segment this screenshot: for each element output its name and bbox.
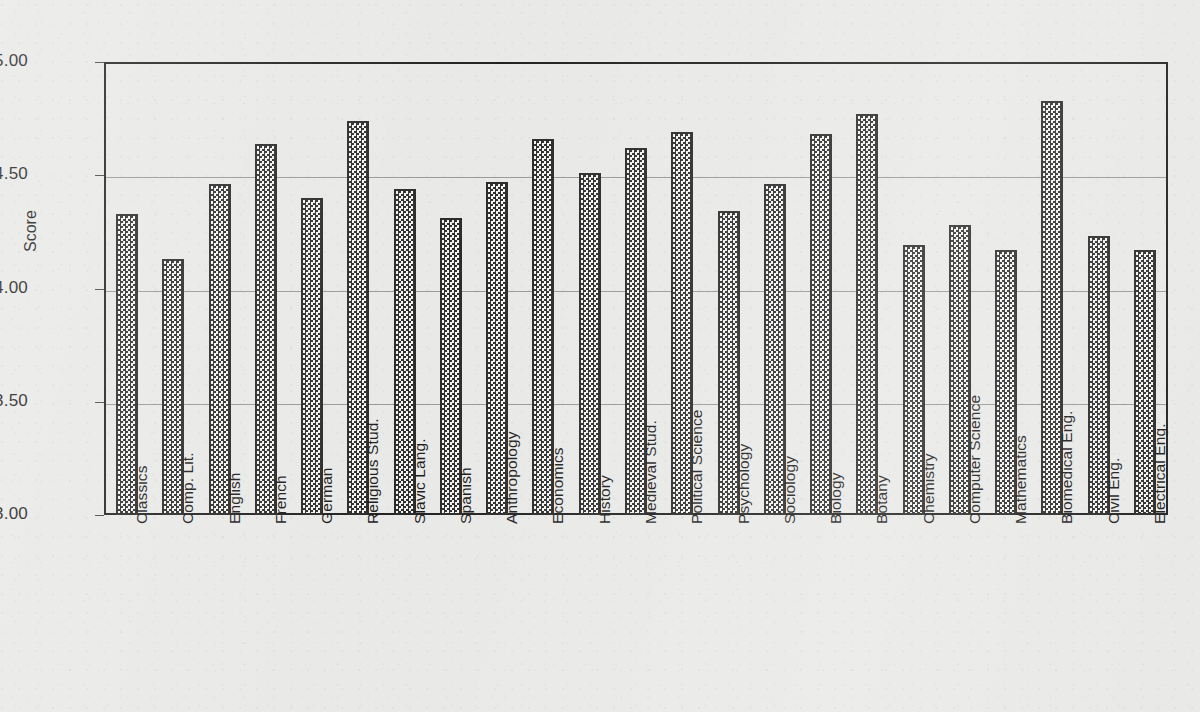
x-tick-label: Sociology <box>781 456 799 524</box>
x-tick-label: Mathematics <box>1012 435 1030 524</box>
bar <box>579 173 601 515</box>
x-tick-label: Biomedical Eng. <box>1058 410 1076 524</box>
bar <box>209 184 231 515</box>
y-tick-label: 3.00 <box>0 504 28 524</box>
x-tick-label: Economics <box>549 447 567 524</box>
x-tick-label: Chemistry <box>920 453 938 524</box>
x-tick-label: German <box>318 467 336 524</box>
y-tick-mark <box>95 175 104 176</box>
bars-layer <box>104 62 1168 515</box>
y-tick-mark <box>95 62 104 63</box>
y-tick-mark <box>95 289 104 290</box>
x-tick-label: English <box>226 472 244 524</box>
x-tick-label: Slavic Lang. <box>411 438 429 524</box>
bar <box>810 134 832 515</box>
y-tick-label: 4.50 <box>0 164 28 184</box>
x-tick-label: Civil Eng. <box>1105 458 1123 524</box>
x-tick-label: Spanish <box>457 467 475 524</box>
x-tick-label: Botany <box>873 475 891 524</box>
bar-chart: Score 5.004.504.003.503.00 ClassicsComp.… <box>0 0 1200 712</box>
bar <box>255 144 277 515</box>
x-tick-label: Comp. Lit. <box>179 452 197 524</box>
x-tick-label: Anthropology <box>503 431 521 524</box>
y-tick-label: 3.50 <box>0 391 28 411</box>
x-tick-label: Biology <box>827 472 845 524</box>
x-tick-label: Computer Science <box>966 395 984 524</box>
x-tick-label: History <box>596 475 614 524</box>
x-tick-label: French <box>272 475 290 524</box>
x-tick-label: Medieval Stud. <box>642 420 660 524</box>
x-tick-label: Psychology <box>735 444 753 524</box>
x-tick-label: Political Science <box>688 409 706 524</box>
x-tick-label: Classics <box>133 465 151 524</box>
y-tick-label: 4.00 <box>0 278 28 298</box>
y-tick-mark <box>95 515 104 516</box>
y-axis-title: Score <box>22 210 40 252</box>
x-tick-label: Electrical Eng. <box>1151 423 1169 524</box>
y-tick-label: 5.00 <box>0 51 28 71</box>
y-tick-mark <box>95 402 104 403</box>
x-tick-label: Religious Stud. <box>364 418 382 524</box>
bar <box>856 114 878 515</box>
